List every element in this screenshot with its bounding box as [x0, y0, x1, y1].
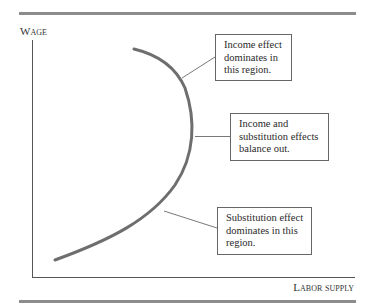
x-axis-label: Labor supply [293, 281, 354, 293]
income-pointer-line [182, 57, 215, 78]
substitution-effect-callout: Substitution effect dominates in this re… [217, 207, 312, 255]
bottom-rule [19, 300, 356, 303]
substitution-pointer-line [164, 211, 217, 228]
balance-callout: Income and substitution effects balance … [230, 113, 329, 161]
income-effect-callout: Income effect dominates in this region. [215, 34, 292, 81]
labor-supply-curve [55, 49, 192, 260]
